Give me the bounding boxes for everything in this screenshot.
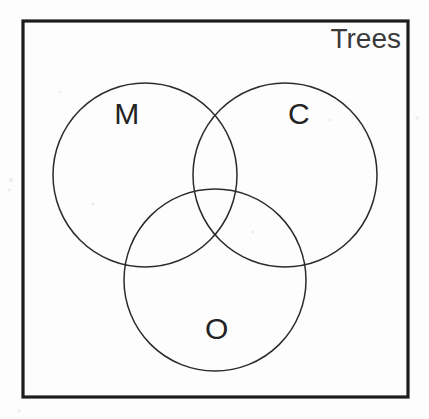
set-circle-c <box>193 83 377 267</box>
venn-diagram-figure: M C O Trees <box>0 0 429 419</box>
universal-set-label: Trees <box>330 23 401 54</box>
set-label-c: C <box>288 97 310 130</box>
set-label-o: O <box>205 312 229 345</box>
scan-noise-layer <box>7 91 418 413</box>
venn-diagram-canvas: M C O Trees <box>0 0 429 419</box>
set-label-m: M <box>114 97 140 130</box>
set-circle-m <box>53 83 237 267</box>
